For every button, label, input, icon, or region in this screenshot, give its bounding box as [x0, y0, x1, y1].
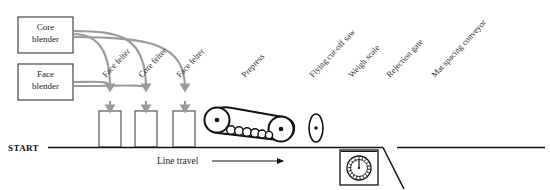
felter-2-box [135, 111, 157, 147]
face-blender-label-line1: Face [37, 69, 54, 79]
start-label: START [8, 143, 39, 153]
face-blender-label-line2: blender [32, 81, 59, 91]
core-blender-label-line2: blender [32, 34, 59, 44]
prepress-roller-right-hub [279, 127, 284, 132]
mat-spacing-conveyor-label: Mat spacing conveyor [429, 17, 488, 79]
prepress-machine [205, 107, 295, 141]
felter-3-box [173, 111, 195, 147]
rejection-gate-label: Rejection gate [384, 37, 425, 80]
prepress-label: Prepress [239, 51, 266, 79]
flow-core-blender-to-face-felter-right [73, 37, 185, 88]
line-travel-label: Line travel [157, 156, 199, 166]
diagram-canvas: Core blender Face blender [0, 0, 550, 189]
felter-1-box [99, 111, 121, 147]
flying-cutoff-saw-machine [309, 114, 323, 142]
rejection-gate-chute [383, 148, 404, 190]
process-flow-diagram: Core blender Face blender [0, 0, 550, 189]
weigh-scale-label: Weigh scale [346, 42, 381, 79]
face-blender-box: Face blender [18, 64, 73, 100]
core-blender-label-line1: Core [37, 22, 55, 32]
flow-core-blender-inner [73, 34, 110, 88]
prepress-roller-left-hub [215, 118, 220, 123]
felter-1-label: Face felter [100, 46, 132, 79]
core-blender-box: Core blender [18, 17, 73, 53]
weigh-scale-machine [340, 150, 378, 185]
felter-2-label: Core felter [136, 46, 168, 80]
